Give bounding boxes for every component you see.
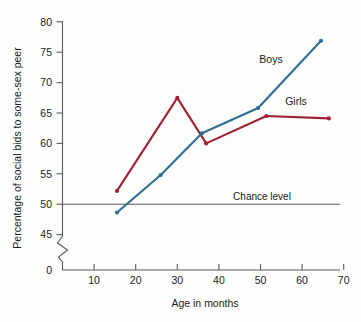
x-axis-title: Age in months: [171, 297, 238, 309]
x-tick-label-60: 60: [296, 274, 308, 286]
data-point-girls: [204, 141, 208, 145]
data-point-boys: [319, 39, 323, 43]
x-tick-label-50: 50: [255, 274, 267, 286]
series-line-girls: [117, 98, 329, 191]
x-tick-label-70: 70: [338, 274, 350, 286]
series-line-boys: [117, 41, 321, 213]
y-tick-label-60: 60: [40, 137, 52, 149]
y-tick-label-80: 80: [40, 16, 52, 28]
y-axis-break-zigzag: [58, 236, 68, 262]
x-tick-label-10: 10: [88, 274, 100, 286]
x-tick-label-20: 20: [130, 274, 142, 286]
data-point-girls: [115, 189, 119, 193]
x-tick-label-40: 40: [213, 274, 225, 286]
y-tick-label-75: 75: [40, 46, 52, 58]
y-tick-label-45: 45: [40, 228, 52, 240]
y-tick-label-0: 0: [46, 264, 52, 276]
x-tick-label-30: 30: [171, 274, 183, 286]
data-point-girls: [264, 114, 268, 118]
chart-figure: 80 75 70 65 60 55 50 45 0 10 20 30 40 50…: [0, 0, 361, 322]
data-point-boys: [159, 173, 163, 177]
data-point-boys: [115, 210, 119, 214]
y-tick-label-65: 65: [40, 107, 52, 119]
line-chart-canvas: 80 75 70 65 60 55 50 45 0 10 20 30 40 50…: [0, 0, 361, 322]
chance-level-label: Chance level: [233, 191, 291, 202]
data-point-boys: [256, 106, 260, 110]
y-tick-label-70: 70: [40, 76, 52, 88]
data-point-girls: [327, 116, 331, 120]
series-label-boys: Boys: [259, 53, 282, 65]
y-tick-label-55: 55: [40, 168, 52, 180]
y-tick-label-50: 50: [40, 198, 52, 210]
series-label-girls: Girls: [285, 95, 307, 107]
data-point-boys: [200, 131, 204, 135]
y-axis-title: Percentage of social bids to some-sex pe…: [11, 47, 23, 249]
data-point-girls: [175, 96, 179, 100]
